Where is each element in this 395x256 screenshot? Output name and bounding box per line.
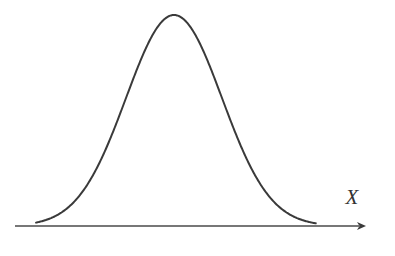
x-axis-label: X: [345, 185, 360, 209]
normal-distribution-figure: X: [0, 0, 395, 256]
figure-canvas: X: [0, 0, 395, 256]
